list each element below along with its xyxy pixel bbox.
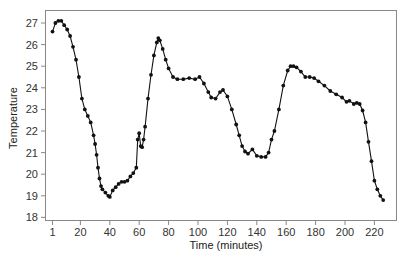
x-tick-label: 180 bbox=[306, 226, 324, 238]
data-point-marker bbox=[95, 153, 99, 157]
x-tick-label: 40 bbox=[104, 226, 116, 238]
data-point-marker bbox=[277, 108, 281, 112]
data-point-marker bbox=[328, 89, 332, 93]
data-point-marker bbox=[93, 142, 97, 146]
data-point-marker bbox=[126, 179, 130, 183]
data-point-marker bbox=[295, 65, 299, 69]
data-point-marker bbox=[98, 177, 102, 181]
data-point-marker bbox=[134, 166, 138, 170]
x-tick-label: 1 bbox=[49, 226, 55, 238]
data-point-marker bbox=[255, 154, 259, 158]
x-tick-label: 160 bbox=[277, 226, 295, 238]
data-point-marker bbox=[92, 133, 96, 137]
plot-frame bbox=[46, 11, 397, 221]
x-tick-label: 80 bbox=[162, 226, 174, 238]
y-axis-title: Temperature bbox=[7, 87, 19, 149]
data-point-marker bbox=[361, 109, 365, 113]
y-tick-label: 19 bbox=[26, 190, 38, 202]
data-point-marker bbox=[373, 179, 377, 183]
data-point-marker bbox=[158, 38, 162, 42]
y-tick-label: 21 bbox=[26, 147, 38, 159]
data-point-marker bbox=[240, 144, 244, 148]
y-tick-label: 25 bbox=[26, 60, 38, 72]
data-point-marker bbox=[143, 125, 147, 129]
data-point-marker bbox=[270, 138, 274, 142]
data-point-marker bbox=[317, 79, 321, 83]
data-point-marker bbox=[136, 138, 140, 142]
y-tick-label: 27 bbox=[26, 17, 38, 29]
data-point-marker bbox=[251, 148, 255, 152]
data-point-marker bbox=[80, 97, 84, 101]
data-point-marker bbox=[273, 129, 277, 133]
data-point-marker bbox=[299, 70, 303, 74]
y-tick-label: 20 bbox=[26, 168, 38, 180]
data-point-marker bbox=[152, 54, 156, 58]
x-tick-label: 200 bbox=[336, 226, 354, 238]
data-point-marker bbox=[226, 95, 230, 99]
data-point-marker bbox=[62, 23, 66, 27]
data-point-marker bbox=[149, 73, 153, 77]
data-point-marker bbox=[137, 131, 141, 135]
data-point-marker bbox=[209, 96, 213, 100]
y-axis: 18192021222324252627 bbox=[26, 17, 46, 223]
data-point-marker bbox=[96, 166, 100, 170]
data-point-marker bbox=[161, 47, 165, 51]
data-point-marker bbox=[83, 108, 87, 112]
data-point-marker bbox=[358, 102, 362, 106]
x-tick-label: 220 bbox=[365, 226, 383, 238]
x-tick-label: 120 bbox=[218, 226, 236, 238]
x-tick-label: 20 bbox=[74, 226, 86, 238]
y-tick-label: 26 bbox=[26, 39, 38, 51]
data-point-marker bbox=[206, 90, 210, 94]
data-point-marker bbox=[378, 194, 382, 198]
data-point-marker bbox=[286, 69, 290, 73]
data-point-marker bbox=[334, 92, 338, 96]
data-point-marker bbox=[146, 97, 150, 101]
data-point-marker bbox=[214, 97, 218, 101]
data-point-marker bbox=[51, 30, 55, 34]
data-point-marker bbox=[202, 82, 206, 86]
x-tick-label: 140 bbox=[248, 226, 266, 238]
data-point-marker bbox=[259, 155, 263, 159]
data-point-marker bbox=[114, 185, 118, 189]
data-point-marker bbox=[167, 67, 171, 71]
data-point-marker bbox=[193, 77, 197, 81]
x-tick-label: 60 bbox=[133, 226, 145, 238]
data-point-marker bbox=[142, 138, 146, 142]
data-point-marker bbox=[187, 76, 191, 80]
data-point-marker bbox=[68, 34, 72, 38]
data-point-marker bbox=[129, 175, 133, 179]
y-tick-label: 18 bbox=[26, 211, 38, 223]
data-point-marker bbox=[381, 198, 385, 202]
data-point-marker bbox=[104, 191, 108, 195]
data-point-marker bbox=[323, 84, 327, 88]
data-point-marker bbox=[267, 151, 271, 155]
y-tick-label: 24 bbox=[26, 82, 38, 94]
data-point-marker bbox=[198, 75, 202, 79]
data-point-marker bbox=[71, 45, 75, 49]
data-point-marker bbox=[171, 75, 175, 79]
data-point-marker bbox=[281, 84, 285, 88]
data-point-marker bbox=[230, 108, 234, 112]
data-point-marker bbox=[308, 75, 312, 79]
data-point-marker bbox=[303, 75, 307, 79]
data-point-marker bbox=[176, 77, 180, 81]
data-point-marker bbox=[131, 171, 135, 175]
data-point-marker bbox=[164, 58, 168, 62]
data-point-marker bbox=[74, 58, 78, 62]
data-point-marker bbox=[375, 187, 379, 191]
data-point-marker bbox=[140, 145, 144, 149]
data-point-marker bbox=[108, 195, 112, 199]
data-point-marker bbox=[59, 19, 63, 23]
data-point-marker bbox=[364, 121, 368, 125]
y-tick-label: 23 bbox=[26, 103, 38, 115]
temperature-line-chart: 18192021222324252627 1204060801001201401… bbox=[0, 0, 411, 262]
data-point-marker bbox=[370, 159, 374, 163]
data-point-marker bbox=[348, 99, 352, 103]
x-axis: 120406080100120140160180200220 bbox=[49, 221, 383, 239]
data-point-marker bbox=[237, 133, 241, 137]
data-point-marker bbox=[367, 140, 371, 144]
x-tick-label: 100 bbox=[189, 226, 207, 238]
data-point-marker bbox=[111, 189, 115, 193]
data-point-marker bbox=[312, 76, 316, 80]
